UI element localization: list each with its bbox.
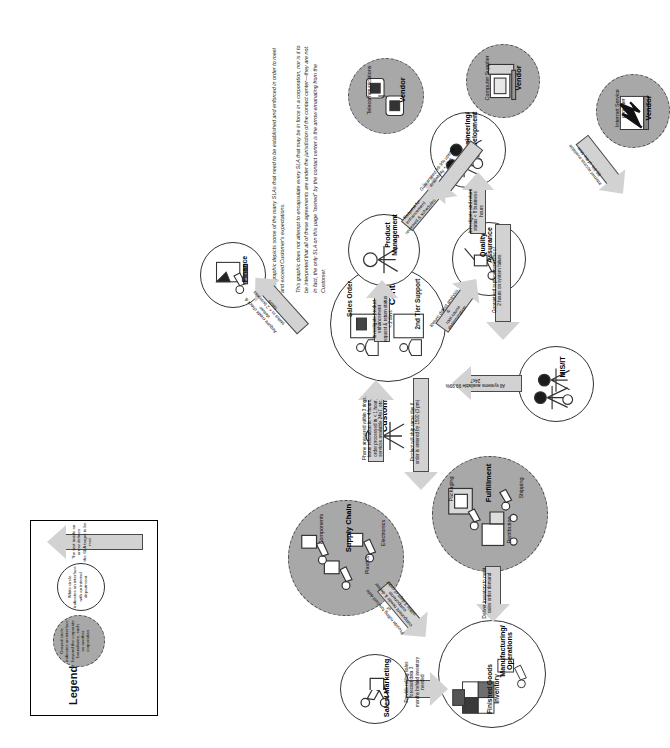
- explanatory-text: This graphic depicts some of the many SL…: [270, 43, 327, 293]
- sublabel-electronics: Electronics: [381, 509, 387, 557]
- sublabel-telecom: Telecommunications: [367, 61, 373, 119]
- arrow-text-contact-to-product: Investigate product enhancement request …: [372, 294, 393, 344]
- sublabel-isp: Internet Service provider: [615, 81, 626, 135]
- sublabel-shipping: Shipping: [519, 467, 525, 509]
- arrow-text-computer-to-mis: Guaranteed replacement time of 2 hours o…: [492, 232, 503, 328]
- legend-title: Legend: [67, 666, 79, 705]
- people-icon: [341, 655, 409, 723]
- node-computer-vendor[interactable]: Computer Supplier Vendor: [466, 44, 540, 118]
- legend-arrow-text: The text inside an arrow defines the SLA…: [71, 519, 92, 565]
- sublabel-2nd-tier: 2nd Tier Support: [415, 277, 422, 331]
- telephone-icon: [349, 59, 423, 133]
- legend-gray-circle-text: Grayed circle indicates an interface bey…: [59, 617, 91, 665]
- legend-box: Legend Grayed circle indicates an interf…: [30, 520, 158, 716]
- arrow-text-sales-to-manufacturing: Provide rolling sales forecast data 3 mo…: [404, 656, 425, 708]
- arrow-text-contact-to-fulfillment: Product will ship same day if order is e…: [410, 384, 421, 480]
- legend-white-circle-text: White circle indicates an interface with…: [67, 565, 88, 609]
- sublabel-packaging: Packaging: [449, 465, 455, 513]
- sublabel-distribution: Distribution: [507, 507, 513, 553]
- node-fulfillment[interactable]: Packaging Distribution Shipping Fulfillm…: [432, 456, 548, 572]
- arrow-text-customer-to-contact: Phone answered within 3 rings, issue res…: [362, 396, 383, 460]
- computer-icon: [467, 45, 539, 117]
- node-telecom-vendor[interactable]: Telecommunications Vendor: [348, 58, 424, 134]
- node-mis-it[interactable]: MIS/IT: [518, 346, 594, 422]
- sublabel-finished-goods: Finished Goods Inventory: [487, 661, 501, 717]
- sublabel-components: Components: [319, 505, 325, 553]
- sublabel-computer-supplier: Computer Supplier: [485, 51, 491, 105]
- legend-arrow: [47, 525, 143, 559]
- arrow-text-fulfillment-to-manufacturing: Deliver inventory to meet sales order de…: [482, 566, 493, 620]
- node-manufacturing[interactable]: Finished Goods Inventory Manufacturing/ …: [438, 620, 546, 728]
- arrow-text-mis-to-contact: All systems available 99.99% 24x7: [440, 378, 510, 389]
- node-sales-marketing[interactable]: Sales/ Marketing: [340, 654, 410, 724]
- sublabel-plastics: Plastics: [365, 545, 371, 585]
- it-team-icon: [519, 347, 593, 421]
